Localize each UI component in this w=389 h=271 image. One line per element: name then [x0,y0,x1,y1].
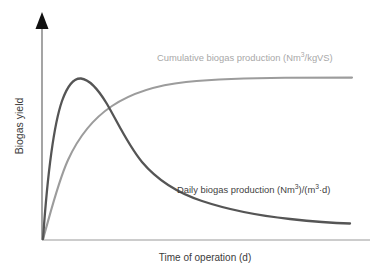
daily-label-middle: )/(m [299,184,316,195]
daily-label-suffix: ·d) [319,184,330,195]
daily-series-label: Daily biogas production (Nm3)/(m3·d) [177,184,330,195]
biogas-yield-chart: Biogas yield Time of operation (d) Cumul… [0,0,389,271]
y-axis-arrowhead-icon [36,12,49,29]
x-axis-title: Time of operation (d) [120,252,290,263]
y-axis-title: Biogas yield [13,86,25,166]
cumulative-series-label: Cumulative biogas production (Nm3/kgVS) [157,52,333,63]
chart-plot-area [0,0,389,271]
daily-label-prefix: Daily biogas production (Nm [177,184,295,195]
cumulative-label-suffix: /kgVS) [305,52,333,63]
cumulative-label-prefix: Cumulative biogas production (Nm [157,52,301,63]
cumulative-biogas-curve [43,78,352,239]
daily-biogas-curve [43,78,350,239]
